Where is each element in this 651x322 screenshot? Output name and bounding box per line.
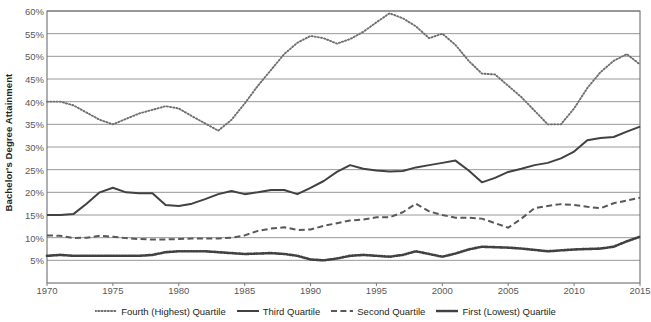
chart-container: Bachelor's Degree Attainment 5%10%15%20%…: [0, 0, 651, 322]
x-axis-tick-label: 1970: [36, 285, 57, 296]
legend-label: Third Quartile: [263, 306, 321, 317]
x-axis-tick-labels: 1970197519801985199019952000200520102015: [0, 285, 651, 301]
series-line: [47, 127, 640, 215]
x-axis-tick-label: 1995: [366, 285, 387, 296]
x-axis-tick-label: 1985: [234, 285, 255, 296]
x-axis-tick-label: 2000: [432, 285, 453, 296]
plot-frame: [47, 11, 640, 286]
legend-item[interactable]: Second Quartile: [331, 306, 425, 317]
legend-line-swatch: [237, 306, 259, 316]
x-axis-tick-label: 1975: [102, 285, 123, 296]
x-axis-tick-label: 1980: [168, 285, 189, 296]
legend-item[interactable]: Fourth (Highest) Quartile: [95, 306, 226, 317]
chart-legend: Fourth (Highest) QuartileThird QuartileS…: [0, 302, 651, 320]
x-axis-tick-label: 2010: [564, 285, 585, 296]
legend-label: First (Lowest) Quartile: [462, 306, 555, 317]
legend-line-swatch: [436, 306, 458, 316]
plot-area: [0, 0, 651, 322]
series-line: [47, 13, 640, 130]
data-series-group: [47, 13, 640, 260]
legend-label: Fourth (Highest) Quartile: [121, 306, 226, 317]
series-line: [47, 198, 640, 240]
legend-item[interactable]: Third Quartile: [237, 306, 321, 317]
legend-label: Second Quartile: [357, 306, 425, 317]
legend-item[interactable]: First (Lowest) Quartile: [436, 306, 555, 317]
x-axis-tick-label: 1990: [300, 285, 321, 296]
legend-line-swatch: [95, 306, 117, 316]
legend-line-swatch: [331, 306, 353, 316]
x-axis-tick-label: 2005: [498, 285, 519, 296]
x-axis-tick-label: 2015: [629, 285, 650, 296]
gridlines: [47, 11, 640, 260]
series-line: [47, 237, 640, 261]
